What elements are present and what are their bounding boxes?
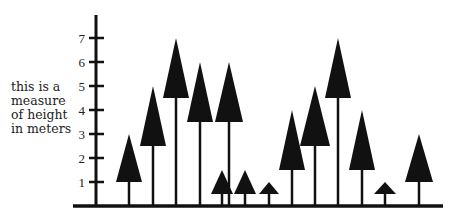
tree-crown xyxy=(259,182,279,194)
tree-crown xyxy=(234,170,256,194)
tree-height-chart: 1234567 xyxy=(0,0,455,218)
tree xyxy=(300,86,330,206)
y-tick-label: 5 xyxy=(79,79,86,94)
tree-crown xyxy=(140,86,166,146)
tree-crown xyxy=(187,62,213,122)
tree-crown xyxy=(116,134,142,182)
tree xyxy=(187,62,213,206)
y-tick-label: 4 xyxy=(79,103,86,118)
tree xyxy=(279,110,305,206)
y-tick-label: 6 xyxy=(79,55,86,70)
tree-crown xyxy=(349,110,375,170)
trees xyxy=(116,38,433,206)
tree-crown xyxy=(325,38,351,98)
tree xyxy=(259,182,279,206)
y-tick-label: 1 xyxy=(79,175,86,190)
y-axis: 1234567 xyxy=(79,15,105,206)
tree-crown xyxy=(300,86,330,146)
tree xyxy=(234,170,256,206)
tree-crown xyxy=(215,62,243,122)
tree-crown xyxy=(163,38,189,98)
y-tick-label: 2 xyxy=(79,151,86,166)
y-tick-label: 7 xyxy=(79,31,86,46)
tree-crown xyxy=(374,182,396,194)
y-tick-label: 3 xyxy=(79,127,86,142)
tree xyxy=(325,38,351,206)
tree-crown xyxy=(405,134,433,182)
tree xyxy=(163,38,189,206)
tree-crown xyxy=(279,110,305,170)
tree xyxy=(140,86,166,206)
tree xyxy=(374,182,396,206)
tree xyxy=(349,110,375,206)
tree xyxy=(405,134,433,206)
tree xyxy=(116,134,142,206)
